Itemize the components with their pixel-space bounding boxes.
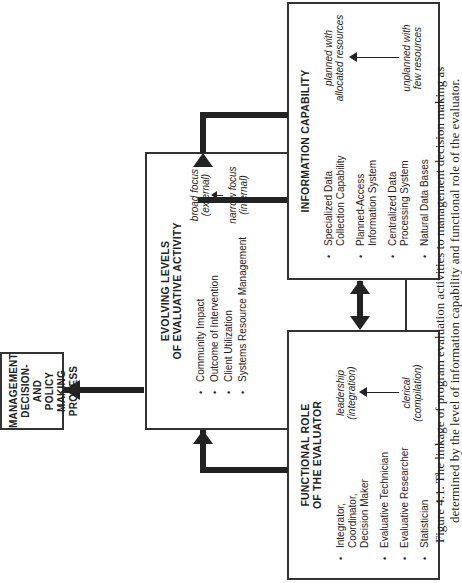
list-item: Statistician — [419, 430, 431, 560]
caption-line-1: Figure 4.1. The linkage of program evalu… — [432, 67, 447, 543]
scale-text: (integration) — [346, 348, 357, 438]
scale-text: planned with — [323, 8, 334, 108]
list-item: Community Impact — [195, 214, 207, 394]
management-line-1: MANAGEMENT — [8, 354, 20, 428]
functional-scale-arrow — [363, 392, 399, 393]
diagram-stage: MANAGEMENT DECISION- AND POLICY MAKING P… — [0, 0, 462, 583]
management-line-2: DECISION- AND — [20, 354, 44, 428]
connector-func-arrowhead — [193, 430, 213, 444]
evolving-list: Community Impact Outcome of Intervention… — [195, 214, 251, 394]
item-line: Decision Maker — [359, 430, 371, 548]
connector-info-arrowhead — [193, 153, 213, 167]
scale-text: (internal) — [238, 160, 249, 230]
information-scale-arrowhead — [349, 52, 357, 62]
double-arrow-head-right — [350, 280, 370, 294]
scale-text: (external) — [200, 160, 211, 230]
scale-text: clerical — [401, 348, 412, 438]
caption-line-2: determined by the level of information c… — [447, 67, 462, 543]
scale-text: (compilation) — [412, 348, 423, 438]
information-capability-box: INFORMATION CAPABILITY Specialized Data … — [287, 2, 440, 280]
evolving-scale-bottom-label: narrow focus (internal) — [227, 160, 249, 230]
item-line: Specialized Data — [323, 108, 335, 246]
management-box: MANAGEMENT DECISION- AND POLICY MAKING P… — [0, 352, 64, 430]
information-list: Specialized Data Collection Capability P… — [323, 108, 433, 258]
list-item: Natural Data Bases — [419, 108, 431, 258]
list-item: Client Utilization — [223, 214, 235, 394]
scale-text: unplanned with — [401, 8, 412, 108]
functional-scale-arrowhead — [359, 387, 367, 397]
connector-func-elbow-v — [200, 467, 288, 473]
item-line: Natural Data Bases — [419, 108, 431, 246]
connector-info-elbow-v — [200, 112, 288, 118]
functional-title-line-2: OF THE EVALUATOR — [311, 332, 323, 578]
list-item: Integrator, Coordinator, Decision Maker — [335, 430, 371, 560]
scale-text: few resources — [412, 8, 423, 108]
item-line: Planned-Access — [355, 108, 367, 246]
list-item: Outcome of Intervention — [209, 214, 221, 394]
list-item: Evaluative Technician — [379, 430, 391, 560]
information-scale-bottom-label: unplanned with few resources — [401, 8, 423, 108]
scale-text: allocated resources — [334, 8, 345, 108]
information-scale-arrow — [353, 57, 399, 58]
scale-text: broad focus — [189, 160, 200, 230]
list-item: Systems Resource Management — [237, 214, 249, 394]
evolving-scale-top-label: broad focus (external) — [189, 160, 211, 230]
evolving-title-line-1: EVOLVING LEVELS — [159, 154, 171, 428]
functional-role-box: FUNCTIONAL ROLE OF THE EVALUATOR Integra… — [287, 330, 440, 580]
connector-info-elbow-h — [200, 112, 206, 153]
evolving-title: EVOLVING LEVELS OF EVALUATIVE ACTIVITY — [159, 154, 183, 428]
item-line: Collection Capability — [335, 108, 347, 246]
evolving-title-line-2: OF EVALUATIVE ACTIVITY — [171, 154, 183, 428]
functional-title-line-1: FUNCTIONAL ROLE — [299, 332, 311, 578]
list-item: Planned-Access Information System — [355, 108, 379, 258]
functional-scale-bottom-label: clerical (compilation) — [401, 348, 423, 438]
item-line: Processing System — [399, 108, 411, 246]
double-arrow-head-left — [350, 316, 370, 330]
functional-scale-top-label: leadership (integration) — [335, 348, 357, 438]
functional-list: Integrator, Coordinator, Decision Maker … — [335, 430, 433, 560]
list-item: Centralized Data Processing System — [387, 108, 411, 258]
item-line: Integrator, — [335, 430, 347, 548]
functional-title: FUNCTIONAL ROLE OF THE EVALUATOR — [299, 332, 323, 578]
information-title: INFORMATION CAPABILITY — [299, 4, 311, 278]
connector-information-to-evolving-v — [198, 197, 298, 203]
list-item: Evaluative Researcher — [399, 430, 411, 560]
item-line: Centralized Data — [387, 108, 399, 246]
scale-text: leadership — [335, 348, 346, 438]
figure-caption: Figure 4.1. The linkage of program evalu… — [432, 67, 462, 543]
information-scale-top-label: planned with allocated resources — [323, 8, 345, 108]
item-line: Information System — [367, 108, 379, 246]
list-item: Specialized Data Collection Capability — [323, 108, 347, 258]
item-line: Coordinator, — [347, 430, 359, 548]
scale-text: narrow focus — [227, 160, 238, 230]
arrow-evolving-to-management-head — [64, 380, 80, 400]
